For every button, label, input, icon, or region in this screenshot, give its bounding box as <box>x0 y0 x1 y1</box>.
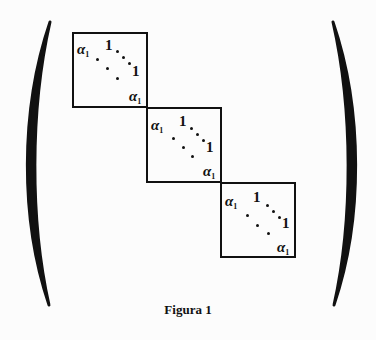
ellipsis-dot <box>191 155 194 158</box>
superdiag-one-bottom: 1 <box>132 64 140 79</box>
ellipsis-dot <box>246 214 249 217</box>
jordan-block-2: α1 1 1 α1 <box>146 107 222 183</box>
diag-alpha-top: α1 <box>151 118 163 135</box>
ellipsis-dot <box>267 232 270 235</box>
ellipsis-dot <box>190 127 193 130</box>
superdiag-one-top: 1 <box>105 38 113 53</box>
left-parenthesis <box>27 22 50 305</box>
ellipsis-dot <box>256 224 259 227</box>
ellipsis-dot <box>266 204 269 207</box>
figure-caption: Figura 1 <box>0 302 376 318</box>
diag-alpha-bottom: α1 <box>203 164 215 181</box>
superdiag-one-bottom: 1 <box>282 216 290 231</box>
ellipsis-dot <box>272 210 275 213</box>
ellipsis-dot <box>106 67 109 70</box>
ellipsis-dot <box>128 62 131 65</box>
right-parenthesis <box>333 22 356 305</box>
ellipsis-dot <box>122 56 125 59</box>
diag-alpha-top: α1 <box>77 42 89 59</box>
superdiag-one-top: 1 <box>253 190 261 205</box>
ellipsis-dot <box>278 216 281 219</box>
jordan-block-1: α1 1 1 α1 <box>72 32 148 108</box>
diag-alpha-bottom: α1 <box>129 89 141 106</box>
diag-alpha-bottom: α1 <box>277 240 289 257</box>
ellipsis-dot <box>196 133 199 136</box>
ellipsis-dot <box>202 139 205 142</box>
superdiag-one-bottom: 1 <box>206 140 214 155</box>
diag-alpha-top: α1 <box>225 194 237 211</box>
ellipsis-dot <box>182 146 185 149</box>
jordan-block-3: α1 1 1 α1 <box>220 182 296 258</box>
ellipsis-dot <box>116 50 119 53</box>
ellipsis-dot <box>116 77 119 80</box>
ellipsis-dot <box>172 137 175 140</box>
ellipsis-dot <box>96 58 99 61</box>
superdiag-one-top: 1 <box>179 114 187 129</box>
